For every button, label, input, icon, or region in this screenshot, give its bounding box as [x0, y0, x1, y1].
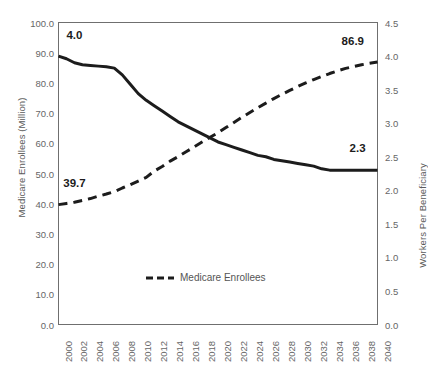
legend-dash-icon [146, 274, 174, 282]
workers-start-label: 4.0 [66, 29, 82, 41]
enrollees-end-label: 86.9 [342, 35, 364, 47]
legend: Medicare Enrollees [146, 272, 266, 283]
enrollees-start-label: 39.7 [63, 177, 85, 189]
series-line-medicare-enrollees [59, 62, 378, 205]
legend-label-medicare-enrollees: Medicare Enrollees [180, 272, 266, 283]
workers-end-label: 2.3 [350, 142, 366, 154]
